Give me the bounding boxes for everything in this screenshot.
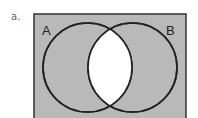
- set-b-label: B: [166, 23, 175, 38]
- venn-diagram: A B: [0, 0, 198, 118]
- set-a-label: A: [42, 23, 51, 38]
